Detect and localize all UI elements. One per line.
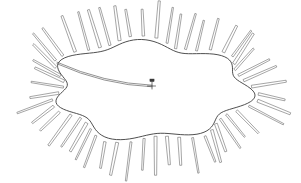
spoke <box>100 142 107 168</box>
spoke <box>192 138 200 173</box>
spoke <box>178 138 182 166</box>
spoke <box>155 1 160 38</box>
spoke <box>174 14 181 49</box>
spoke <box>31 81 63 88</box>
spoke <box>209 18 219 49</box>
spoke <box>69 122 88 152</box>
spoke <box>87 9 101 47</box>
spoke <box>61 15 76 51</box>
spoke <box>196 20 205 50</box>
spoke <box>110 143 119 176</box>
spoke <box>142 139 146 170</box>
spoke <box>165 137 170 165</box>
spoke <box>125 9 132 36</box>
pin-head-icon <box>150 79 154 82</box>
spoke <box>166 7 173 43</box>
spoke <box>78 12 90 51</box>
spoke <box>185 13 197 49</box>
spoke <box>243 65 276 81</box>
spoke <box>42 28 64 57</box>
radiating-spoke-figure <box>0 0 301 183</box>
figure-root <box>0 0 301 183</box>
spoke <box>258 93 285 101</box>
spoke <box>141 9 145 36</box>
spoke <box>252 80 287 88</box>
spoke <box>99 7 111 45</box>
spoke <box>30 92 59 99</box>
spoke <box>114 6 121 41</box>
spoke <box>61 118 82 148</box>
spoke <box>222 25 238 52</box>
spoke <box>125 142 132 181</box>
spoke <box>154 137 157 176</box>
